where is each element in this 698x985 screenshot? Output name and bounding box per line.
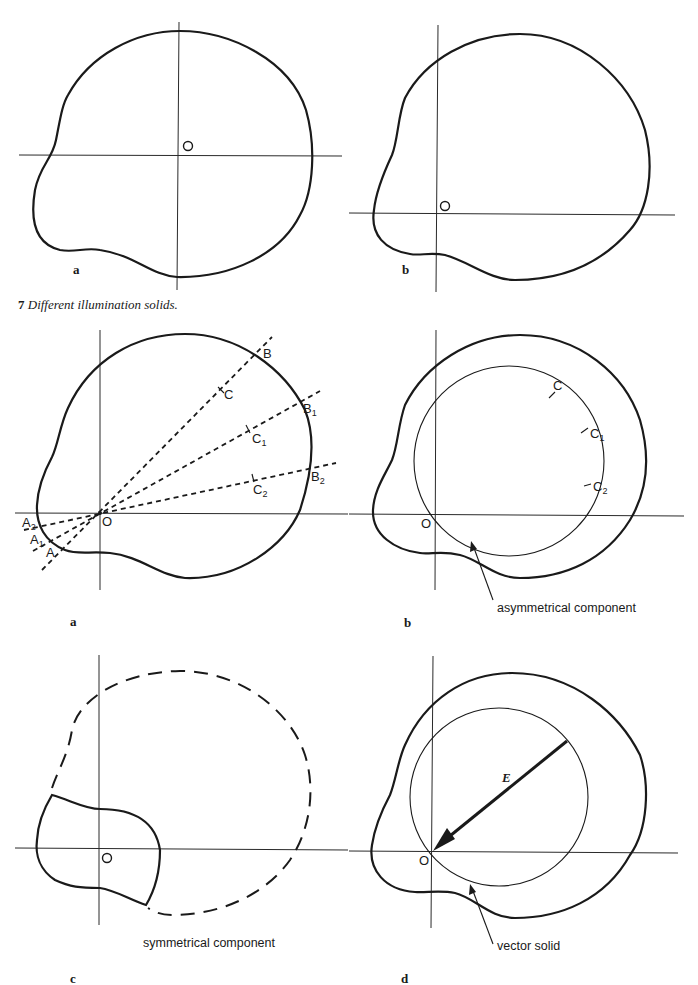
figure-8b: C C1 C2 O asymmetrical component b xyxy=(349,330,684,630)
origin-label: O xyxy=(419,853,429,868)
vertical-axis xyxy=(177,22,179,290)
label-C1: C1 xyxy=(252,431,266,448)
origin-marker xyxy=(103,854,112,863)
panel-label: a xyxy=(73,262,80,277)
vertical-axis xyxy=(435,330,436,590)
caption-text: Different illumination solids. xyxy=(28,297,178,312)
vertical-axis xyxy=(436,25,438,292)
horizontal-axis xyxy=(349,213,675,215)
illustration-page: a b B C B1 C1 B2 C2 A2 A1 A O a xyxy=(0,0,698,985)
illumination-solid-outline xyxy=(37,334,311,578)
origin-label: O xyxy=(421,516,431,531)
horizontal-axis xyxy=(15,848,348,850)
asymmetrical-component-circle xyxy=(414,366,604,556)
origin-label: O xyxy=(102,514,112,529)
horizontal-axis xyxy=(349,851,678,853)
illumination-solid-outline xyxy=(33,31,312,277)
illumination-solid-outline xyxy=(373,34,649,280)
label-C2: C2 xyxy=(253,482,267,499)
origin-marker xyxy=(441,202,450,211)
tick-C1 xyxy=(581,428,588,433)
symmetrical-component-lobe xyxy=(37,795,160,905)
panel-label: c xyxy=(70,971,76,985)
label-B2: B2 xyxy=(311,469,325,486)
label-B1: B1 xyxy=(303,401,317,418)
horizontal-axis xyxy=(19,155,342,156)
panel-label: a xyxy=(70,614,77,629)
symmetrical-component-dashed-outline xyxy=(52,671,310,915)
panel-label: d xyxy=(401,971,409,985)
vector-arrowhead-icon xyxy=(433,828,455,851)
tick-C2 xyxy=(584,484,591,486)
illumination-solid-outline xyxy=(371,673,646,918)
annotation-label: asymmetrical component xyxy=(497,601,636,615)
ray-A1-B1 xyxy=(33,391,320,551)
label-C2: C2 xyxy=(593,479,607,496)
figure-8d: E O vector solid d xyxy=(349,656,678,985)
figure-8a: B C B1 C1 B2 C2 A2 A1 A O a xyxy=(15,330,348,629)
label-A: A xyxy=(46,545,55,560)
arrowhead-icon xyxy=(469,884,476,895)
label-A2: A2 xyxy=(22,515,36,532)
annotation-label: symmetrical component xyxy=(143,936,276,950)
vector-label-E: E xyxy=(501,770,511,785)
figure-7b: b xyxy=(349,25,675,292)
label-C1: C1 xyxy=(590,426,604,443)
panel-label: b xyxy=(402,262,409,277)
figure-7a: a xyxy=(19,22,342,290)
figure-8c: symmetrical component c xyxy=(15,655,348,985)
illumination-vector-line xyxy=(445,741,567,840)
figure-number: 7 xyxy=(18,297,25,312)
figure-caption: 7 Different illumination solids. xyxy=(18,297,178,313)
label-C: C xyxy=(553,378,562,393)
origin-marker xyxy=(184,142,193,151)
ray-A2-B2 xyxy=(24,463,336,530)
label-B: B xyxy=(263,346,272,361)
annotation-arrow-line xyxy=(474,548,493,600)
annotation-arrow-line xyxy=(473,891,493,944)
vertical-axis xyxy=(431,656,433,928)
annotation-label: vector solid xyxy=(497,939,560,953)
ray-A-B xyxy=(42,337,272,570)
label-A1: A1 xyxy=(30,532,44,549)
panel-label: b xyxy=(404,615,411,630)
label-C: C xyxy=(224,387,233,402)
